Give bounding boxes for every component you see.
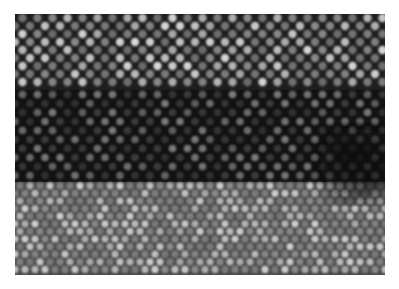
atom-lattice-image xyxy=(15,14,385,275)
lattice-micrograph xyxy=(15,14,385,275)
